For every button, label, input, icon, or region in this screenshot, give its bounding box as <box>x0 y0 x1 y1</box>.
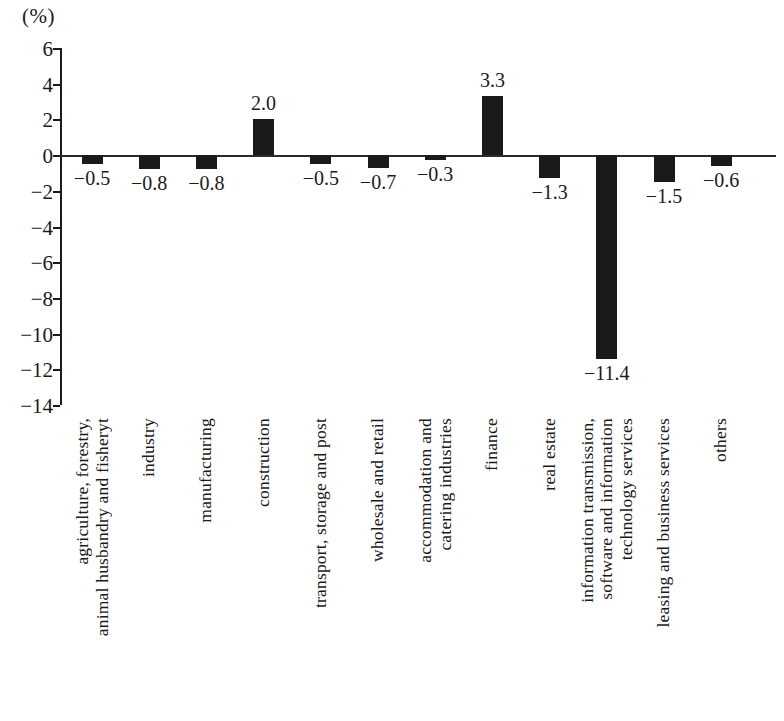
y-tick-label: −8 <box>31 288 53 309</box>
y-tick-mark <box>53 334 60 336</box>
bar-value-label: −1.5 <box>646 186 682 206</box>
x-category-label: information transmission,software and in… <box>578 418 637 603</box>
bar-value-label: −0.8 <box>188 173 224 193</box>
bar <box>482 96 503 155</box>
x-category-label-line: construction <box>255 418 273 507</box>
x-category-label: construction <box>254 418 274 507</box>
y-tick-mark <box>53 227 60 229</box>
x-category-label-line: transport, storage and post <box>312 418 330 608</box>
x-axis-category-labels: agriculture, forestry,animal husbandry a… <box>60 418 776 718</box>
y-tick-mark <box>53 155 60 157</box>
bar-value-label: −0.6 <box>703 170 739 190</box>
y-tick-label: 2 <box>43 110 54 131</box>
x-category-label-line: others <box>712 418 730 462</box>
y-tick-label: 0 <box>43 146 54 167</box>
y-tick-mark <box>53 119 60 121</box>
bar <box>310 155 331 164</box>
x-category-label-line: wholesale and retail <box>369 418 387 562</box>
bar-value-label: 3.3 <box>480 70 505 90</box>
y-tick-mark <box>53 298 60 300</box>
y-tick-label: 6 <box>43 39 54 60</box>
x-category-label: industry <box>139 418 159 477</box>
x-category-label-line: real estate <box>541 418 559 491</box>
y-tick-label: −4 <box>31 217 53 238</box>
x-category-label-line: industry <box>140 418 158 477</box>
y-tick-mark <box>53 369 60 371</box>
plot-area: 6420−2−4−6−8−10−12−14 −0.5−0.8−0.82.0−0.… <box>60 48 776 405</box>
y-axis-line <box>60 48 62 405</box>
x-category-label: finance <box>483 418 503 471</box>
x-category-label: others <box>711 418 731 462</box>
x-category-label-line: accommodation and <box>417 418 435 563</box>
x-category-label: transport, storage and post <box>311 418 331 608</box>
y-axis-unit-label: (%) <box>22 6 55 27</box>
y-tick-mark <box>53 84 60 86</box>
x-category-label-line: animal husbandry and fisheryt <box>93 418 111 636</box>
bar-chart: (%) 6420−2−4−6−8−10−12−14 −0.5−0.8−0.82.… <box>0 0 784 721</box>
y-tick-mark <box>53 262 60 264</box>
y-tick-label: −6 <box>31 253 53 274</box>
bar <box>139 155 160 169</box>
bar-value-label: −1.3 <box>531 182 567 202</box>
bar-value-label: −11.4 <box>584 363 630 383</box>
y-tick-label: −10 <box>20 324 53 345</box>
y-tick-label: −14 <box>20 396 53 417</box>
bar-value-label: 2.0 <box>251 93 276 113</box>
bar <box>539 155 560 178</box>
x-category-label: leasing and business services <box>654 418 674 627</box>
bar <box>654 155 675 182</box>
bar-value-label: −0.7 <box>360 172 396 192</box>
x-category-label-line: technology services <box>618 418 636 560</box>
y-tick-mark <box>53 48 60 50</box>
bar <box>253 119 274 155</box>
y-tick-label: 4 <box>43 74 54 95</box>
y-tick-mark <box>53 191 60 193</box>
bar <box>425 155 446 160</box>
y-tick-mark <box>53 405 60 407</box>
y-tick-label: −2 <box>31 181 53 202</box>
bar-value-label: −0.8 <box>131 173 167 193</box>
bar-value-label: −0.5 <box>74 168 110 188</box>
bar <box>596 155 617 358</box>
bar <box>82 155 103 164</box>
x-category-label-line: information transmission, <box>579 418 597 603</box>
bar <box>196 155 217 169</box>
y-tick-label: −12 <box>20 360 53 381</box>
x-category-label: real estate <box>540 418 560 491</box>
bar <box>368 155 389 167</box>
x-category-label-line: finance <box>484 418 502 471</box>
bar-value-label: −0.5 <box>303 168 339 188</box>
x-category-label: manufacturing <box>197 418 217 523</box>
x-category-label-line: software and information <box>598 418 616 600</box>
bar-value-label: −0.3 <box>417 164 453 184</box>
x-category-label-line: manufacturing <box>198 418 216 523</box>
x-category-label: agriculture, forestry,animal husbandry a… <box>73 418 112 636</box>
x-category-label: wholesale and retail <box>368 418 388 562</box>
x-category-label-line: agriculture, forestry, <box>74 418 92 565</box>
bar <box>711 155 732 166</box>
x-category-label-line: catering industries <box>436 418 454 551</box>
x-category-label-line: leasing and business services <box>655 418 673 627</box>
x-category-label: accommodation andcatering industries <box>416 418 455 563</box>
